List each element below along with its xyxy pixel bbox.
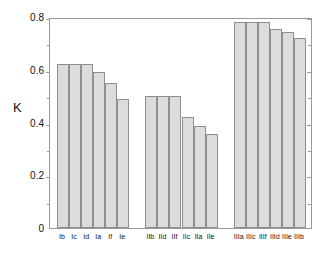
bar [182,117,194,228]
y-tick-label: 0 [22,224,44,234]
bar [117,99,129,228]
y-axis-tick-labels: 00.20.40.60.8 [20,0,44,262]
x-tick-label: Ie [114,232,130,241]
x-tick-label: IIe [203,232,219,241]
bar [57,64,69,228]
plot-area [49,18,312,229]
y-tick-label: 0.8 [22,13,44,23]
bar [105,83,117,228]
y-tick-label: 0.2 [22,171,44,181]
bar [282,32,294,228]
bar [258,22,270,228]
bar-chart: K 00.20.40.60.8 IbIcIdIaIfIeIIbIIdIIfIIc… [0,0,328,262]
bar [194,126,206,228]
bar [93,72,105,228]
bar [81,64,93,228]
bar [246,22,258,228]
bar [234,22,246,228]
bar [69,64,81,228]
bar [145,96,157,228]
y-tick-label: 0.6 [22,66,44,76]
x-axis-category-labels: IbIcIdIaIfIeIIbIIdIIfIIcIIaIIeIIIaIIIcII… [49,232,312,246]
bar [270,29,282,228]
bar [206,134,218,228]
bar [169,96,181,228]
x-tick-label: IIIb [291,232,307,241]
y-tick-label: 0.4 [22,119,44,129]
bar [157,96,169,228]
bars-layer [50,19,311,228]
bar [294,38,306,228]
